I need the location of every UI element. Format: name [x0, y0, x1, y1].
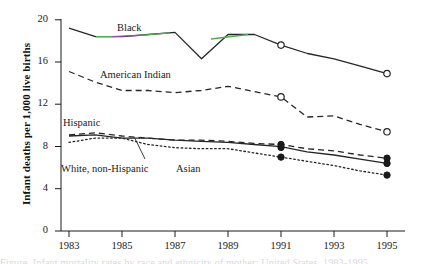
x-tick-label-1987: 1987 — [155, 240, 195, 251]
x-tick-label-1989: 1989 — [208, 240, 248, 251]
y-tick-label-8: 8 — [22, 140, 48, 151]
series-label-american-indian: American Indian — [100, 69, 171, 80]
y-tick-label-20: 20 — [22, 13, 48, 24]
white-non-hispanic-leader-line — [135, 139, 145, 160]
x-tick-label-1991: 1991 — [261, 240, 301, 251]
y-tick-label-4: 4 — [22, 182, 48, 193]
x-tick-label-1985: 1985 — [102, 240, 142, 251]
marker-white-non-hispanic-1991 — [278, 144, 284, 150]
chart-figure: Infant deaths per 1,000 live births 20 1… — [0, 0, 424, 264]
series-accent-purple — [112, 35, 140, 36]
series-label-white-non-hispanic: White, non-Hispanic — [61, 163, 148, 174]
y-tick-label-16: 16 — [22, 55, 48, 66]
data-point-markers — [278, 42, 390, 178]
series-label-hispanic: Hispanic — [63, 117, 100, 128]
marker-american-indian-1991 — [278, 94, 284, 100]
marker-white-non-hispanic-1995 — [384, 160, 390, 166]
line-chart-canvas — [0, 0, 424, 264]
figure-caption-clipped: Figure. Infant mortality rates by race a… — [0, 257, 424, 264]
marker-asian-1991 — [278, 154, 284, 160]
marker-black-1995 — [384, 70, 390, 76]
series-accent-green-c — [211, 35, 248, 40]
axes-group — [55, 19, 405, 237]
series-line-black — [69, 28, 387, 73]
x-tick-label-1993: 1993 — [314, 240, 354, 251]
series-group — [69, 28, 387, 175]
series-label-black: Black — [117, 22, 142, 33]
x-tick-label-1983: 1983 — [49, 240, 89, 251]
marker-asian-1995 — [384, 172, 390, 178]
y-axis-ticks — [55, 20, 61, 231]
series-accent-green-b — [140, 33, 170, 36]
series-line-hispanic — [69, 133, 387, 158]
x-axis-ticks — [69, 231, 387, 237]
marker-american-indian-1995 — [384, 129, 390, 135]
y-tick-label-0: 0 — [22, 224, 48, 235]
x-tick-label-1995: 1995 — [367, 240, 407, 251]
marker-black-1991 — [278, 42, 284, 48]
y-tick-label-12: 12 — [22, 97, 48, 108]
series-line-american-indian — [69, 72, 387, 132]
series-label-asian: Asian — [176, 163, 201, 174]
y-axis-title: Infant deaths per 1,000 live births — [20, 14, 32, 234]
